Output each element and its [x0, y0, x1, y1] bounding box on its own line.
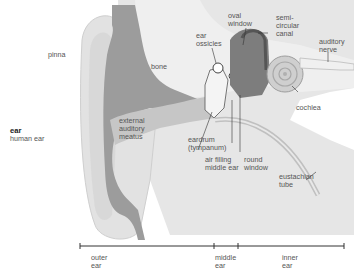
label-external-auditory-meatus: external auditory meatus [119, 117, 145, 141]
ear-anatomy-diagram [0, 0, 354, 280]
label-air-filling-middle-ear: air filling middle ear [205, 156, 239, 172]
label-eardrum: eardrum (tympanum) [188, 136, 226, 152]
label-cochlea: cochlea [296, 104, 321, 112]
section-scale-bar [80, 243, 344, 249]
section-outer-ear: outer ear [91, 254, 107, 270]
section-middle-ear: middle ear [215, 254, 236, 270]
label-round-window: round window [244, 156, 268, 172]
label-eustachian-tube: eustachian tube [279, 173, 314, 189]
label-oval-window: oval window [228, 12, 252, 28]
ossicles-shape [213, 63, 223, 73]
label-bone: bone [151, 63, 167, 71]
section-inner-ear: inner ear [282, 254, 298, 270]
entry-subtitle: human ear [10, 134, 44, 143]
label-ear-ossicles: ear ossicles [196, 32, 222, 48]
label-auditory-nerve: auditory nerve [319, 38, 345, 54]
label-semicircular-canal: semi- circular canal [276, 14, 299, 38]
label-pinna: pinna [48, 51, 66, 59]
